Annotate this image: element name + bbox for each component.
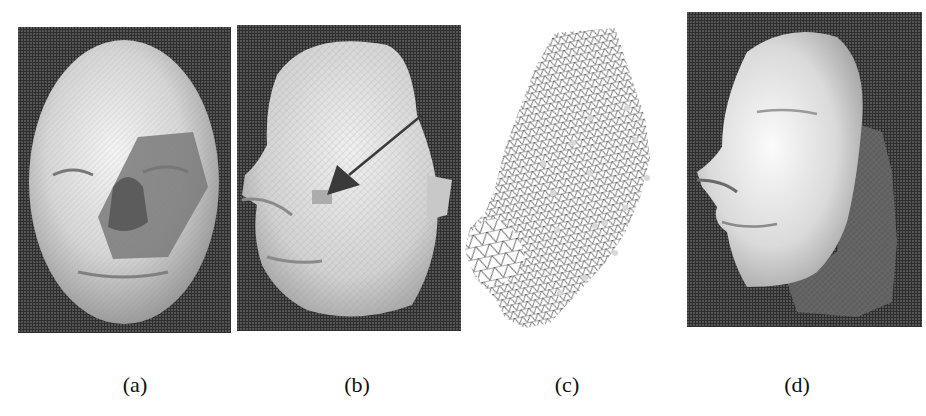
- caption-b: (b): [344, 372, 370, 398]
- figure-panel-b: [237, 25, 461, 331]
- figure-panel-d: [687, 12, 922, 327]
- wireframe-mesh-image: [465, 28, 670, 330]
- caption-a: (a): [123, 372, 147, 398]
- figure-panel-a: [18, 27, 231, 333]
- face-scan-frontal-image: [18, 27, 231, 333]
- caption-d: (d): [784, 372, 810, 398]
- face-scan-side-image: [687, 12, 922, 327]
- figure-panel-c: [465, 28, 670, 330]
- caption-c: (c): [555, 372, 579, 398]
- face-scan-three-quarter-image: [237, 25, 461, 331]
